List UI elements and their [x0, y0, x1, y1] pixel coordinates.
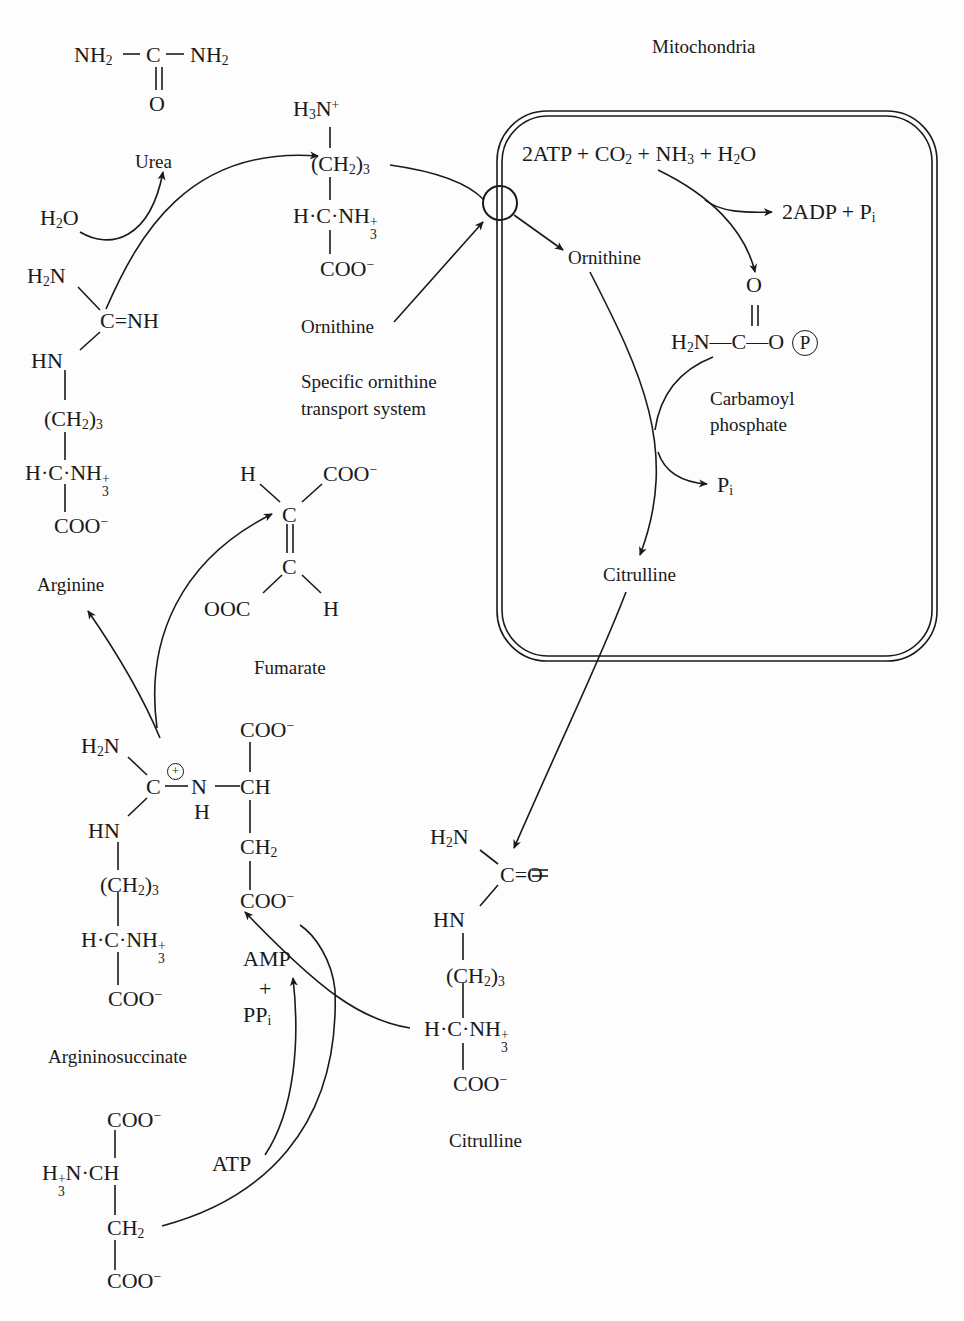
fumarate-label: Fumarate: [254, 656, 326, 680]
fumarate-h-top: H: [240, 463, 256, 485]
amp: AMP: [243, 948, 291, 970]
arginine-h2n: H2N: [27, 265, 66, 287]
amp-plus: +: [259, 978, 271, 1000]
citrulline-hn: HN: [433, 909, 465, 931]
transport-label-line2: transport system: [301, 397, 426, 421]
argininosuccinate-label: Argininosuccinate: [48, 1045, 187, 1069]
argsucc-alpha-carbon: H·C·NH+3: [81, 929, 166, 965]
carbamoyl-label-line2: phosphate: [710, 413, 787, 437]
argsucc-ch: CH: [240, 776, 271, 798]
argsucc-nh: H: [194, 801, 210, 823]
arginine-carboxyl: COO−: [54, 515, 108, 537]
arginine-label: Arginine: [37, 573, 104, 597]
pyrophosphate: PPi: [243, 1004, 271, 1026]
inorganic-phosphate: Pi: [717, 474, 733, 496]
argsucc-h2n: H2N: [81, 735, 120, 757]
carbamoyl-oxygen: O: [746, 274, 762, 296]
fumarate-c2: C: [282, 556, 297, 578]
citrulline-alpha-carbon: H·C·NH+3: [424, 1018, 509, 1054]
mitochondria-outer-membrane: [497, 111, 937, 661]
aspartate-coo-top: COO−: [107, 1109, 161, 1131]
fumarate-c1: C: [282, 504, 297, 526]
argsucc-ch2: CH2: [240, 836, 277, 858]
urea-carbon: C: [146, 44, 161, 66]
argsucc-coo-bottom: COO−: [240, 890, 294, 912]
carbamoyl-formula: H2N—C—OP: [671, 330, 818, 356]
arginine-chain: (CH2)3: [44, 408, 103, 430]
ornithine-amine: H3N+: [293, 98, 339, 120]
fumarate-coo-top: COO−: [323, 463, 377, 485]
argsucc-carbon: C: [146, 776, 161, 798]
citrulline-mito-label: Citrulline: [603, 563, 676, 587]
water: H2O: [40, 207, 79, 229]
citrulline-co: C=O: [500, 864, 543, 886]
fumarate-h-bottom: H: [323, 598, 339, 620]
argsucc-n: N: [191, 776, 207, 798]
ornithine-chain: (CH2)3: [311, 153, 370, 175]
citrulline-label: Citrulline: [449, 1129, 522, 1153]
positive-charge-icon: +: [167, 763, 184, 780]
phosphate-circle-icon: P: [792, 330, 818, 356]
transporter-icon: [483, 186, 517, 220]
urea-oxygen: O: [149, 93, 165, 115]
urea-label: Urea: [135, 150, 172, 174]
mito-products-adp: 2ADP + Pi: [782, 201, 876, 223]
urea-nh2-right: NH2: [190, 44, 229, 66]
mitochondria-label: Mitochondria: [652, 35, 755, 59]
urea-cycle-diagram: Mitochondria NH2 C NH2 O Urea H2O H3N+ (…: [0, 0, 964, 1321]
urea-nh2-left: NH2: [74, 44, 113, 66]
aspartate-ch2: CH2: [107, 1217, 144, 1239]
arginine-alpha-carbon: H·C·NH+3: [25, 462, 110, 498]
aspartate-alpha: H+3N·CH: [42, 1162, 119, 1198]
arginine-cnh: C=NH: [100, 310, 159, 332]
atp: ATP: [212, 1153, 251, 1175]
citrulline-carboxyl: COO−: [453, 1073, 507, 1095]
citrulline-h2n: H2N: [430, 826, 469, 848]
arginine-hn: HN: [31, 350, 63, 372]
citrulline-chain: (CH2)3: [446, 965, 505, 987]
aspartate-coo-bottom: COO−: [107, 1270, 161, 1292]
argsucc-carboxyl: COO−: [108, 988, 162, 1010]
mito-reactants: 2ATP + CO2 + NH3 + H2O: [522, 143, 756, 165]
mitochondria-inner-membrane: [502, 116, 932, 656]
ornithine-alpha-carbon: H·C·NH+3: [293, 205, 378, 241]
transport-label-line1: Specific ornithine: [301, 370, 437, 394]
ornithine-carboxyl: COO−: [320, 258, 374, 280]
ornithine-mito-label: Ornithine: [568, 246, 641, 270]
argsucc-chain: (CH2)3: [100, 874, 159, 896]
fumarate-ooc: OOC: [204, 598, 250, 620]
carbamoyl-label-line1: Carbamoyl: [710, 387, 794, 411]
argsucc-coo-top: COO−: [240, 719, 294, 741]
ornithine-cytosol-label: Ornithine: [301, 315, 374, 339]
argsucc-hn: HN: [88, 820, 120, 842]
